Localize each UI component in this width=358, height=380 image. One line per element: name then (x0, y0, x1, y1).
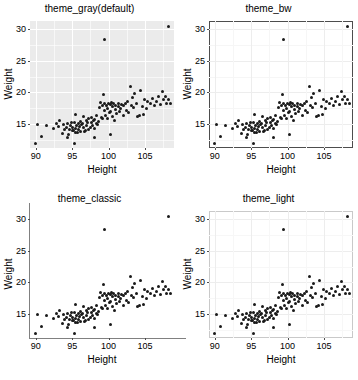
data-point (151, 97, 154, 100)
data-point (129, 85, 132, 88)
data-point (45, 124, 48, 127)
data-point (308, 85, 311, 88)
data-point (275, 313, 278, 316)
data-point (281, 283, 284, 286)
data-point (343, 285, 346, 288)
data-point (348, 102, 351, 105)
data-point (346, 25, 349, 28)
scatter-points (209, 211, 353, 338)
plot-area: 909510010530252015 (30, 211, 174, 338)
data-point (261, 305, 264, 308)
data-point (93, 127, 96, 130)
y-tick-label: 15 (195, 119, 205, 129)
data-point (167, 98, 170, 101)
data-point (159, 293, 162, 296)
x-tick-mark (72, 148, 73, 150)
data-point (34, 332, 37, 335)
data-point (133, 92, 136, 95)
data-point (93, 317, 96, 320)
data-point (113, 119, 116, 122)
y-axis-title: Weight (182, 69, 193, 100)
data-point (138, 304, 141, 307)
data-point (275, 123, 278, 126)
data-point (288, 110, 291, 113)
data-point (288, 133, 291, 136)
data-point (236, 125, 239, 128)
data-point (338, 103, 341, 106)
data-point (126, 290, 129, 293)
data-point (159, 103, 162, 106)
data-point (85, 124, 88, 127)
y-tick-label: 15 (195, 309, 205, 319)
y-tick-mark (207, 314, 209, 315)
data-point (109, 323, 112, 326)
data-point (73, 142, 76, 145)
data-point (328, 102, 331, 105)
y-tick-label: 25 (195, 246, 205, 256)
plot-area: 909510010530252015 (30, 21, 174, 148)
data-point (215, 313, 218, 316)
data-point (340, 90, 343, 93)
data-point (305, 100, 308, 103)
data-point (314, 292, 317, 295)
x-tick-label: 95 (246, 341, 256, 351)
data-point (280, 307, 283, 310)
y-axis-title-wrapper: Weight (8, 0, 9, 190)
data-point (167, 288, 170, 291)
data-point (155, 100, 158, 103)
data-point (219, 325, 222, 328)
data-point (52, 127, 55, 130)
data-point (103, 228, 106, 231)
x-tick-mark (215, 338, 216, 340)
plot-panel-bw: theme_bw909510010530252015HeightWeight (179, 0, 358, 190)
data-point (258, 320, 261, 323)
x-axis-title: Height (30, 164, 174, 175)
data-point (346, 215, 349, 218)
data-point (74, 113, 77, 116)
data-point (109, 300, 112, 303)
y-tick-mark (207, 219, 209, 220)
data-point (157, 95, 160, 98)
data-point (231, 127, 234, 130)
data-point (253, 303, 256, 306)
data-point (74, 127, 77, 130)
data-point (274, 304, 277, 307)
data-point (151, 287, 154, 290)
data-point (82, 115, 85, 118)
y-tick-label: 30 (16, 24, 26, 34)
y-tick-mark (28, 124, 30, 125)
data-point (101, 117, 104, 120)
y-tick-mark (207, 282, 209, 283)
data-point (83, 320, 86, 323)
data-point (272, 326, 275, 329)
data-point (74, 131, 77, 134)
x-tick-label: 105 (316, 151, 331, 161)
plot-panel-light: theme_light909510010530252015HeightWeigh… (179, 190, 358, 380)
data-point (73, 332, 76, 335)
data-point (282, 38, 285, 41)
data-point (260, 122, 263, 125)
data-point (317, 304, 320, 307)
data-point (106, 117, 109, 120)
data-point (52, 317, 55, 320)
data-point (301, 304, 304, 307)
data-point (332, 294, 335, 297)
x-axis-title: Height (209, 164, 353, 175)
data-point (169, 292, 172, 295)
data-point (348, 292, 351, 295)
data-point (165, 102, 168, 105)
data-point (93, 326, 96, 329)
data-point (318, 279, 321, 282)
data-point (264, 314, 267, 317)
data-point (58, 309, 61, 312)
data-point (224, 314, 227, 317)
data-point (236, 315, 239, 318)
x-tick-mark (72, 338, 73, 340)
x-tick-mark (288, 338, 289, 340)
data-point (66, 326, 69, 329)
y-tick-mark (28, 29, 30, 30)
data-point (115, 112, 118, 115)
data-point (86, 311, 89, 314)
data-point (167, 215, 170, 218)
data-point (253, 113, 256, 116)
